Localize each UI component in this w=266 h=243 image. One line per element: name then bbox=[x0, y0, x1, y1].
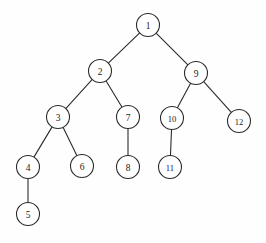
tree-node-12[interactable]: 12 bbox=[228, 110, 251, 133]
node-label-11: 11 bbox=[166, 163, 174, 173]
tree-edge-9-12 bbox=[204, 82, 232, 113]
tree-node-7[interactable]: 7 bbox=[117, 106, 140, 129]
tree-node-8[interactable]: 8 bbox=[117, 156, 140, 179]
tree-edge-1-2 bbox=[108, 33, 139, 63]
node-label-10: 10 bbox=[168, 114, 177, 124]
node-layer: 129371012468115 bbox=[17, 14, 251, 226]
node-label-3: 3 bbox=[56, 113, 61, 123]
tree-node-2[interactable]: 2 bbox=[89, 60, 112, 83]
tree-edge-3-6 bbox=[63, 127, 77, 155]
node-label-5: 5 bbox=[26, 210, 31, 220]
tree-node-9[interactable]: 9 bbox=[185, 62, 208, 85]
tree-node-10[interactable]: 10 bbox=[161, 107, 184, 130]
node-label-2: 2 bbox=[98, 67, 103, 77]
tree-edge-10-11 bbox=[170, 129, 171, 155]
node-label-6: 6 bbox=[80, 162, 85, 172]
tree-node-11[interactable]: 11 bbox=[159, 156, 182, 179]
tree-edge-1-9 bbox=[156, 33, 188, 65]
tree-diagram: 129371012468115 bbox=[0, 0, 266, 243]
node-label-4: 4 bbox=[26, 163, 31, 173]
node-label-12: 12 bbox=[235, 117, 244, 127]
node-label-1: 1 bbox=[146, 21, 151, 31]
tree-node-5[interactable]: 5 bbox=[17, 203, 40, 226]
tree-node-4[interactable]: 4 bbox=[17, 156, 40, 179]
tree-edge-3-4 bbox=[34, 127, 52, 157]
node-label-9: 9 bbox=[194, 69, 199, 79]
tree-edge-9-10 bbox=[177, 83, 190, 108]
tree-node-3[interactable]: 3 bbox=[47, 106, 70, 129]
tree-node-6[interactable]: 6 bbox=[71, 155, 94, 178]
tree-edge-2-3 bbox=[66, 79, 93, 108]
tree-edge-2-7 bbox=[106, 81, 122, 107]
node-label-7: 7 bbox=[126, 113, 131, 123]
tree-diagram-canvas: 129371012468115 bbox=[0, 0, 266, 243]
node-label-8: 8 bbox=[126, 163, 131, 173]
tree-node-1[interactable]: 1 bbox=[137, 14, 160, 37]
